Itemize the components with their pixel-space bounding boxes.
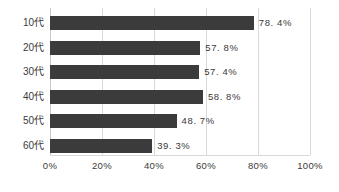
bar: [50, 41, 200, 55]
y-axis-label-1: 20代: [0, 41, 44, 55]
x-axis-tick-0: 0%: [43, 160, 57, 171]
gridline-20: [102, 8, 103, 155]
bar-value-label: 39. 3%: [157, 136, 190, 156]
bar: [50, 16, 254, 30]
y-axis-label-5: 60代: [0, 139, 44, 153]
bar: [50, 90, 203, 104]
bar-value-label: 57. 8%: [205, 38, 238, 58]
gridline-40: [154, 8, 155, 155]
x-axis-baseline: [50, 155, 310, 156]
y-axis-category-labels: 10代 20代 30代 40代 50代 60代: [0, 8, 44, 155]
bar-value-label: 48. 7%: [182, 111, 215, 131]
bar: [50, 65, 199, 79]
bar: [50, 139, 152, 153]
x-axis-tick-4: 80%: [248, 160, 268, 171]
y-axis-label-4: 50代: [0, 114, 44, 128]
bar-value-label: 78. 4%: [259, 13, 292, 33]
bar-value-label: 57. 4%: [204, 62, 237, 82]
gridline-100: [310, 8, 311, 155]
y-axis-label-0: 10代: [0, 16, 44, 30]
x-axis-tick-5: 100%: [297, 160, 323, 171]
x-axis-tick-3: 60%: [196, 160, 216, 171]
y-axis-label-3: 40代: [0, 90, 44, 104]
x-axis-tick-1: 20%: [92, 160, 112, 171]
bar-chart: 10代 20代 30代 40代 50代 60代 78. 4% 57. 8% 57…: [0, 0, 339, 192]
gridline-0: [50, 8, 51, 155]
plot-area: 78. 4% 57. 8% 57. 4% 58. 8% 48. 7% 39. 3…: [50, 8, 310, 155]
bar: [50, 114, 177, 128]
x-axis-tick-2: 40%: [144, 160, 164, 171]
bar-value-label: 58. 8%: [208, 87, 241, 107]
y-axis-label-2: 30代: [0, 65, 44, 79]
